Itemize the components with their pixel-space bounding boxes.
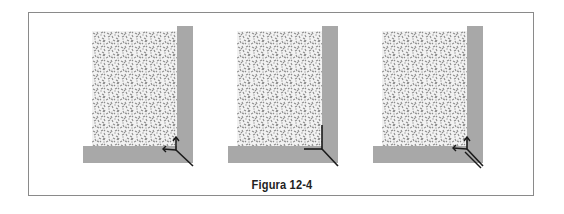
arrow-icon (83, 13, 213, 173)
diagram-panel-3 (373, 13, 503, 173)
double-arrow-icon (373, 13, 503, 173)
corner-lines-icon (228, 13, 358, 173)
figure-caption: Figura 12-4 (67, 177, 497, 192)
figure-frame: Figura 12-4 (28, 12, 534, 196)
diagram-panel-2 (228, 13, 358, 173)
diagram-panel-1 (83, 13, 213, 173)
